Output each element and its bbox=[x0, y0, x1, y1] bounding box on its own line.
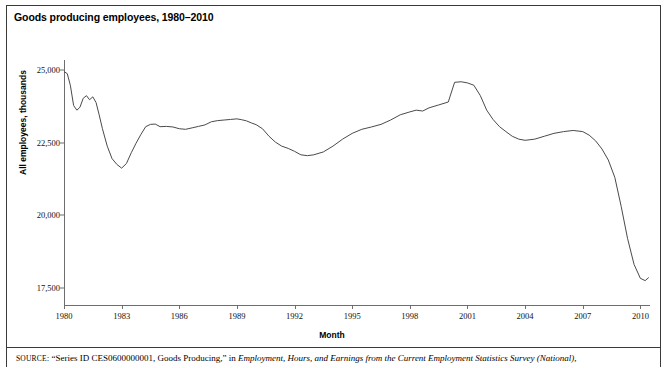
x-tick-label: 2001 bbox=[459, 311, 476, 321]
x-tick-label: 1992 bbox=[286, 311, 303, 321]
source-text-lead: : “Series ID CES0600000001, Goods Produc… bbox=[47, 353, 238, 363]
frame-left-rule bbox=[6, 5, 7, 367]
x-tick-mark bbox=[122, 305, 123, 309]
frame-top-rule bbox=[6, 5, 661, 6]
x-tick-mark bbox=[583, 305, 584, 309]
series-line-goods-producing bbox=[64, 72, 648, 281]
source-divider-rule bbox=[6, 347, 661, 348]
x-tick-mark bbox=[64, 305, 65, 309]
x-tick-label: 2010 bbox=[632, 311, 649, 321]
x-tick-mark bbox=[410, 305, 411, 309]
source-label: SOURCE bbox=[16, 354, 47, 363]
x-tick-mark bbox=[640, 305, 641, 309]
x-tick-label: 2004 bbox=[517, 311, 534, 321]
x-tick-label: 1980 bbox=[56, 311, 73, 321]
x-tick-label: 2007 bbox=[574, 311, 591, 321]
x-axis-line bbox=[64, 305, 650, 306]
y-tick-mark bbox=[60, 70, 64, 71]
y-tick-mark bbox=[60, 287, 64, 288]
x-tick-mark bbox=[525, 305, 526, 309]
x-tick-mark bbox=[295, 305, 296, 309]
x-tick-mark bbox=[352, 305, 353, 309]
x-tick-mark bbox=[237, 305, 238, 309]
plot-area: 17,50020,00022,50025,000 198019831986198… bbox=[64, 60, 650, 305]
y-tick-label: 17,500 bbox=[37, 283, 60, 293]
x-tick-mark bbox=[467, 305, 468, 309]
x-tick-label: 1989 bbox=[228, 311, 245, 321]
source-note: SOURCE: “Series ID CES0600000001, Goods … bbox=[16, 353, 652, 364]
y-tick-label: 20,000 bbox=[37, 210, 60, 220]
source-text-tail: , bbox=[574, 353, 576, 363]
x-axis-title: Month bbox=[0, 330, 664, 340]
source-publication-title: Employment, Hours, and Earnings from the… bbox=[238, 353, 574, 363]
y-axis-title: All employees, thousands bbox=[18, 70, 28, 175]
x-tick-label: 1998 bbox=[401, 311, 418, 321]
x-tick-mark bbox=[179, 305, 180, 309]
line-chart-svg bbox=[64, 60, 650, 305]
x-tick-label: 1995 bbox=[344, 311, 361, 321]
chart-title: Goods producing employees, 1980–2010 bbox=[14, 11, 213, 23]
y-tick-label: 22,500 bbox=[37, 138, 60, 148]
y-tick-mark bbox=[60, 142, 64, 143]
frame-right-rule bbox=[660, 5, 661, 367]
x-tick-label: 1983 bbox=[113, 311, 130, 321]
y-tick-mark bbox=[60, 215, 64, 216]
figure-container: Goods producing employees, 1980–2010 All… bbox=[0, 0, 664, 368]
x-tick-label: 1986 bbox=[171, 311, 188, 321]
y-tick-label: 25,000 bbox=[37, 65, 60, 75]
